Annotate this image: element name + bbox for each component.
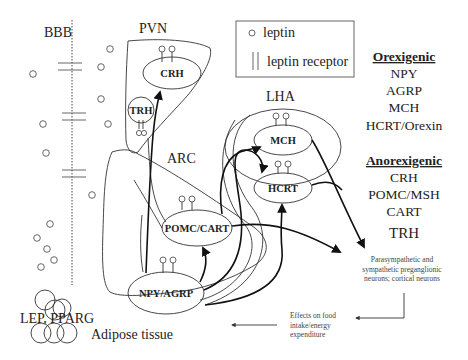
adipose-tissue-label: Adipose tissue (91, 327, 173, 342)
output-neurons: Parasympathetic and sympathetic pregangl… (362, 255, 442, 283)
arc-label: ARC (167, 151, 196, 166)
anorexigenic-item: POMC/MSH (368, 187, 440, 202)
npy-agrp-label: NPY/AGRP (139, 288, 194, 299)
orexigenic-heading: Orexigenic (373, 49, 436, 64)
anorexigenic-item: CART (386, 204, 422, 219)
neurons-to-effects-arrow (356, 293, 404, 318)
output-effects: Effects on food intake/energy expenditur… (290, 311, 336, 339)
leptin-pathway-diagram: BBB PVN CRH TRH ARC (0, 0, 468, 360)
trh-label: TRH (130, 105, 153, 116)
legend: leptin leptin receptor (236, 21, 354, 77)
mch-label: MCH (270, 135, 296, 146)
crh-nucleus: CRH (143, 46, 201, 89)
adipose-genes-label: LEP, PPARG (20, 311, 94, 326)
crh-label: CRH (160, 68, 183, 79)
trh-nucleus: TRH (128, 97, 154, 136)
orexigenic-list: Orexigenic NPY AGRP MCH HCRT/Orexin (366, 49, 443, 133)
anorexigenic-item: CRH (390, 170, 418, 185)
output-effects-line2: intake/energy (290, 321, 331, 330)
hcrt-label: HCRT (268, 183, 298, 194)
mch-nucleus: MCH (254, 113, 312, 155)
lha-label: LHA (266, 89, 296, 104)
legend-receptor-label: leptin receptor (267, 54, 349, 69)
blood-brain-barrier: BBB (44, 20, 86, 285)
output-neurons-line2: sympathetic preganglionic (362, 265, 442, 274)
output-effects-line1: Effects on food (290, 311, 336, 320)
orexigenic-item: AGRP (386, 83, 422, 98)
output-neurons-line3: neurons; cortical neurons (364, 274, 440, 283)
orexigenic-item: NPY (390, 66, 417, 81)
npy-agrp-nucleus: NPY/AGRP (128, 257, 204, 314)
output-effects-line3: expenditure (290, 330, 326, 339)
orexigenic-item: MCH (389, 100, 420, 115)
anorexigenic-item: TRH (389, 225, 419, 241)
orexigenic-item: HCRT/Orexin (366, 118, 443, 133)
bbb-label: BBB (44, 25, 72, 40)
pomc-cart-label: POMC/CART (165, 223, 229, 234)
anorexigenic-heading: Anorexigenic (366, 153, 442, 168)
anorexigenic-list: Anorexigenic CRH POMC/MSH CART TRH (366, 153, 442, 241)
output-neurons-line1: Parasympathetic and (371, 255, 434, 264)
legend-leptin-label: leptin (263, 25, 295, 40)
pvn-label: PVN (139, 21, 167, 36)
